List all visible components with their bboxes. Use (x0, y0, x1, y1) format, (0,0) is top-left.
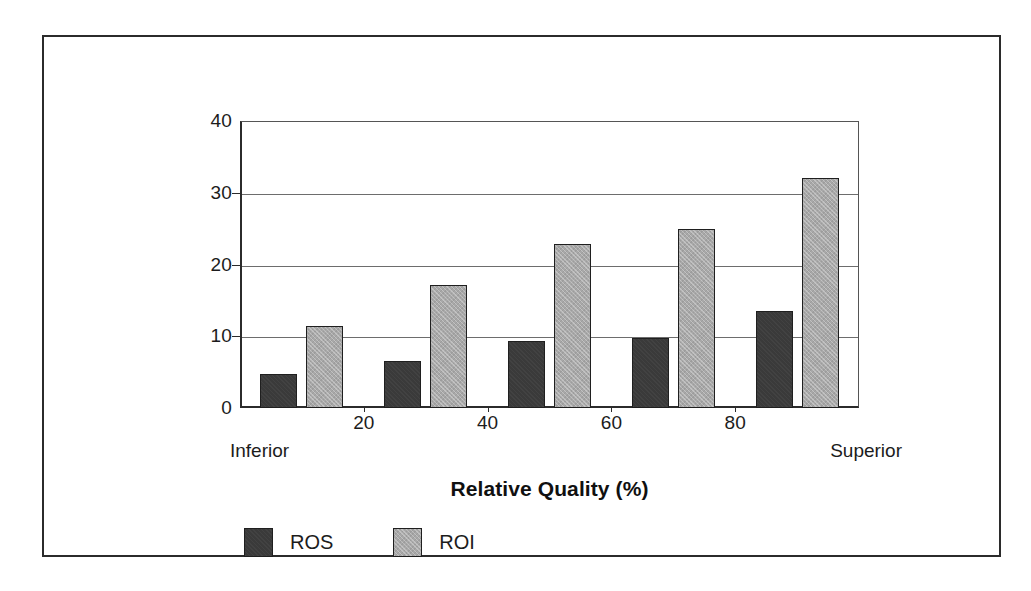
y-axis-tick-20 (232, 265, 240, 266)
x-axis-tick-labels: 20406080 (240, 413, 859, 441)
x-axis-tick-60 (611, 406, 612, 412)
x-axis-endpoint-labels: Inferior Superior (240, 441, 880, 467)
bar-ros-group-70 (632, 338, 669, 408)
bar-roi-group-10 (306, 326, 343, 409)
y-axis-label-20: 20 (192, 255, 232, 274)
x-axis-endpoint-superior: Superior (830, 441, 902, 460)
chart-legend: ROSROI (244, 524, 535, 560)
x-axis-tick-20 (364, 406, 365, 412)
figure-frame: 010203040 20406080 Inferior Superior Rel… (42, 35, 1001, 557)
legend-item-ros[interactable]: ROS (244, 528, 333, 557)
bar-ros-group-10 (260, 374, 297, 408)
x-axis-tick-80 (735, 406, 736, 412)
legend-item-roi[interactable]: ROI (393, 528, 475, 557)
bar-roi-group-70 (678, 229, 715, 408)
x-axis-tick-40 (488, 406, 489, 412)
x-axis-label-20: 20 (353, 413, 374, 432)
bars-layer (240, 121, 859, 408)
y-axis-labels: 010203040 (187, 37, 232, 537)
bar-ros-group-50 (508, 341, 545, 408)
x-axis-label-40: 40 (477, 413, 498, 432)
x-axis-label-60: 60 (601, 413, 622, 432)
bar-roi-group-30 (430, 285, 467, 408)
x-axis-label-80: 80 (725, 413, 746, 432)
y-axis-label-30: 30 (192, 183, 232, 202)
bar-roi-group-90 (802, 178, 839, 408)
dark-gray-swatch-icon (244, 528, 273, 557)
y-axis-label-10: 10 (192, 326, 232, 345)
legend-label-ros: ROS (290, 532, 333, 552)
x-axis-endpoint-inferior: Inferior (230, 441, 289, 460)
x-axis-title: Relative Quality (%) (240, 477, 859, 501)
light-gray-swatch-icon (393, 528, 422, 557)
bar-roi-group-50 (554, 244, 591, 408)
y-axis-label-40: 40 (192, 111, 232, 130)
bar-ros-group-90 (756, 311, 793, 408)
bar-ros-group-30 (384, 361, 421, 408)
y-axis-tick-10 (232, 336, 240, 337)
y-axis-tick-30 (232, 193, 240, 194)
y-axis-label-0: 0 (192, 398, 232, 417)
legend-label-roi: ROI (439, 532, 475, 552)
